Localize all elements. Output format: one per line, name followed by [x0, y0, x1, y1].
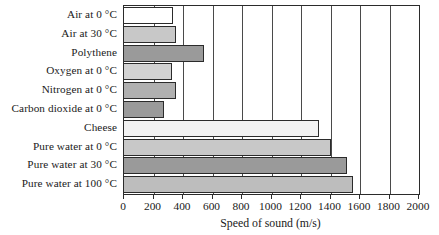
x-axis-tick: [300, 194, 301, 199]
x-axis-tick-label: 1000: [259, 200, 282, 212]
bar: [123, 120, 319, 137]
bar: [123, 101, 164, 118]
x-axis-tick: [389, 194, 390, 199]
x-axis-tick: [418, 194, 419, 199]
x-axis-tick: [182, 194, 183, 199]
category-label: Cheese: [84, 118, 117, 137]
category-label: Pure water at 0 °C: [33, 137, 117, 156]
x-axis-tick: [241, 194, 242, 199]
x-axis-tick-label: 2000: [407, 200, 430, 212]
x-axis-tick-label: 1400: [318, 200, 341, 212]
x-axis-tick: [330, 194, 331, 199]
x-axis-tick-label: 1600: [348, 200, 371, 212]
x-axis-tick: [359, 194, 360, 199]
x-axis-tick-label: 1800: [377, 200, 400, 212]
bar: [123, 45, 204, 62]
bar: [123, 82, 176, 99]
x-axis-tick-label: 600: [203, 200, 220, 212]
category-label: Pure water at 100 °C: [22, 174, 117, 193]
x-axis-tick: [212, 194, 213, 199]
bar: [123, 157, 347, 174]
speed-of-sound-bar-chart: Air at 0 °CAir at 30 °CPolytheneOxygen a…: [0, 0, 439, 235]
x-axis-tick-label: 400: [173, 200, 190, 212]
x-axis-tick-label: 0: [120, 200, 126, 212]
category-label: Air at 0 °C: [67, 5, 117, 24]
category-label: Nitrogen at 0 °C: [42, 80, 117, 99]
x-axis-tick: [271, 194, 272, 199]
x-axis-tick: [153, 194, 154, 199]
bar: [123, 26, 176, 43]
bar: [123, 139, 331, 156]
category-label: Pure water at 30 °C: [27, 155, 117, 174]
plot-area: [123, 5, 420, 195]
x-axis-tick: [123, 194, 124, 199]
bar: [123, 7, 173, 24]
bars: [124, 6, 419, 194]
category-label: Carbon dioxide at 0 °C: [12, 99, 117, 118]
bar: [123, 176, 353, 193]
x-axis-tick-label: 800: [232, 200, 249, 212]
x-axis-tick-label: 200: [144, 200, 161, 212]
category-label: Oxygen at 0 °C: [46, 61, 117, 80]
category-axis-labels: Air at 0 °CAir at 30 °CPolytheneOxygen a…: [0, 5, 120, 193]
category-label: Air at 30 °C: [61, 24, 117, 43]
x-axis-tick-label: 1200: [289, 200, 312, 212]
category-label: Polythene: [71, 43, 117, 62]
x-axis-title: Speed of sound (m/s): [123, 216, 418, 231]
bar: [123, 63, 172, 80]
